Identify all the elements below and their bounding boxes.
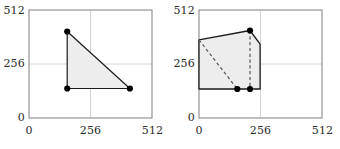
- right-data-point: [247, 86, 253, 92]
- right-xtick-label-256: 256: [244, 125, 277, 136]
- right-ytick-label-0: 0: [170, 112, 195, 123]
- left-ytick-label-0: 0: [0, 112, 25, 123]
- left-data-point: [64, 85, 70, 91]
- right-xtick-label-0: 0: [189, 125, 209, 136]
- left-xtick-label-0: 0: [19, 125, 39, 136]
- right-ytick-label-256: 256: [170, 58, 195, 69]
- left-ytick-label-512: 512: [0, 5, 25, 16]
- left-xtick-label-256: 256: [74, 125, 107, 136]
- left-data-point: [127, 85, 133, 91]
- right-data-point: [234, 86, 240, 92]
- left-plot-panel: 512 256 0 0 256 512: [0, 0, 170, 149]
- left-ytick-label-256: 256: [0, 58, 25, 69]
- figure-root: 512 256 0 0 256 512 512 256 0: [0, 0, 340, 149]
- right-ytick-label-512: 512: [170, 5, 195, 16]
- right-pentagon-region: [199, 31, 260, 90]
- left-triangle-region: [67, 32, 130, 89]
- right-data-point: [247, 27, 253, 33]
- left-data-point: [64, 28, 70, 34]
- right-xtick-label-512: 512: [306, 125, 339, 136]
- left-xtick-label-512: 512: [136, 125, 169, 136]
- right-plot-panel: 512 256 0 0 256 512: [170, 0, 340, 149]
